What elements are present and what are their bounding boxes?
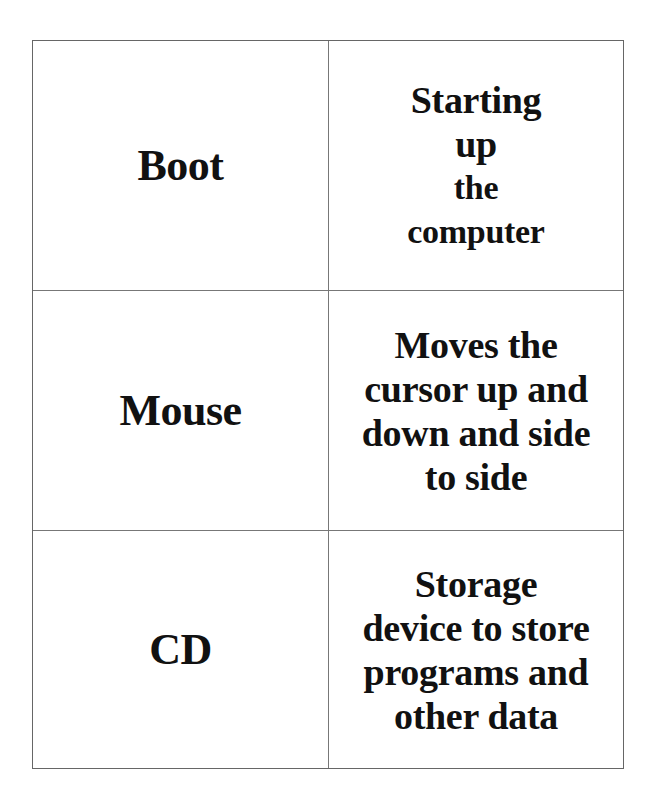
term-text: Mouse	[119, 385, 241, 436]
definition-line: up	[407, 122, 544, 166]
definition-cell-mouse: Moves the cursor up and down and side to…	[329, 291, 623, 531]
definition-line: programs and	[363, 650, 590, 694]
term-cell-boot: Boot	[33, 41, 329, 291]
definition-line: Moves the	[362, 323, 590, 367]
definition-cell-boot: Starting up the computer	[329, 41, 623, 291]
definition-text: Starting up the computer	[407, 78, 544, 254]
term-cell-mouse: Mouse	[33, 291, 329, 531]
definition-line: cursor up and	[362, 367, 590, 411]
definition-text: Moves the cursor up and down and side to…	[362, 323, 590, 499]
definition-line: computer	[407, 210, 544, 254]
definition-line: Starting	[407, 78, 544, 122]
definition-line: down and side	[362, 411, 590, 455]
definition-text: Storage device to store programs and oth…	[363, 562, 590, 738]
definition-line: other data	[363, 694, 590, 738]
definition-line: the	[407, 166, 544, 210]
vocabulary-table: Boot Starting up the computer Mouse Move…	[32, 40, 624, 769]
term-text: CD	[149, 624, 212, 675]
definition-line: to side	[362, 455, 590, 499]
term-text: Boot	[138, 140, 224, 191]
definition-cell-cd: Storage device to store programs and oth…	[329, 531, 623, 768]
definition-line: device to store	[363, 606, 590, 650]
definition-line: Storage	[363, 562, 590, 606]
term-cell-cd: CD	[33, 531, 329, 768]
page: Boot Starting up the computer Mouse Move…	[0, 0, 655, 806]
